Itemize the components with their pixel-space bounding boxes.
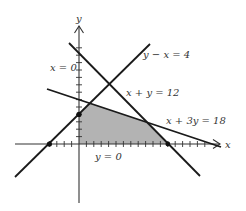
x-axis-label: x [225,139,231,150]
lp-diagram: x y y − x = 4 x + y = 12 x + 3y = 18 [0,0,246,211]
y-axis: y [75,13,84,203]
point-12-0 [165,142,170,147]
feasible-region [79,103,168,144]
label-x-plus-3y: x + 3y = 18 [166,115,226,126]
label-y-minus-x: y − x = 4 [142,49,190,60]
label-x-plus-y: x + y = 12 [126,87,180,98]
label-y-eq-0: y = 0 [94,151,122,162]
point-0-4 [76,112,81,117]
label-x-eq-0: x = 0 [50,62,77,73]
line-y-minus-x-eq-4 [15,44,150,177]
point-neg4-0 [47,141,52,146]
y-axis-label: y [75,13,82,24]
